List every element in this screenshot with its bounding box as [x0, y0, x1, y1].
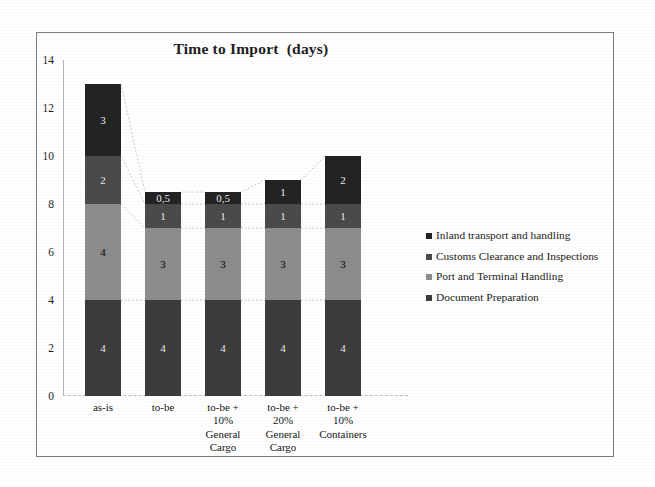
y-axis-tick-label: 0 — [48, 390, 54, 402]
bar-segment-value-label: 1 — [220, 211, 226, 222]
legend-swatch-icon — [426, 233, 432, 239]
bar-segment[interactable]: 4 — [265, 300, 301, 396]
chart-title: Time to Import (days) — [36, 40, 466, 58]
bar-segment[interactable]: 1 — [325, 204, 361, 228]
bar-segment[interactable]: 2 — [325, 156, 361, 204]
y-axis-tick-label: 14 — [43, 54, 55, 66]
legend-label: Inland transport and handling — [436, 228, 570, 243]
bar-segment-value-label: 2 — [100, 175, 106, 186]
bar-segment[interactable]: 4 — [205, 300, 241, 396]
bar-segment[interactable]: 3 — [145, 228, 181, 300]
legend-item[interactable]: Document Preparation — [426, 290, 616, 305]
chart-legend: Inland transport and handlingCustoms Cle… — [426, 228, 616, 310]
bar-segment[interactable]: 4 — [85, 204, 121, 300]
stacked-bar[interactable]: 1134 — [265, 180, 301, 396]
bar-segment-value-label: 1 — [280, 211, 286, 222]
bar-segment-value-label: 3 — [220, 259, 226, 270]
legend-label: Document Preparation — [436, 290, 539, 305]
legend-swatch-icon — [426, 295, 432, 301]
y-axis-tick-label: 2 — [48, 342, 54, 354]
bar-segment[interactable]: 3 — [85, 84, 121, 156]
bar-segment-value-label: 0,5 — [216, 193, 230, 204]
legend-swatch-icon — [426, 254, 432, 260]
bar-segment[interactable]: 1 — [265, 204, 301, 228]
plot-area: 0246810121432440,51340,513411342134 — [63, 60, 403, 396]
bar-segment-value-label: 4 — [280, 343, 286, 354]
x-axis-category-label: to-be +10%Containers — [306, 401, 380, 441]
y-axis-tick-label: 10 — [43, 150, 55, 162]
bar-segment-value-label: 3 — [160, 259, 166, 270]
bar-segment-value-label: 2 — [340, 175, 346, 186]
legend-item[interactable]: Customs Clearance and Inspections — [426, 249, 616, 264]
stacked-bar[interactable]: 2134 — [325, 156, 361, 396]
bar-segment[interactable]: 1 — [145, 204, 181, 228]
stacked-bar[interactable]: 0,5134 — [205, 192, 241, 396]
bar-segment[interactable]: 3 — [205, 228, 241, 300]
bar-segment[interactable]: 1 — [205, 204, 241, 228]
legend-swatch-icon — [426, 274, 432, 280]
bar-segment-value-label: 4 — [100, 343, 106, 354]
bar-segment-value-label: 0,5 — [156, 193, 170, 204]
y-axis-tick-label: 6 — [48, 246, 54, 258]
bar-segment[interactable]: 4 — [325, 300, 361, 396]
bar-segment[interactable]: 4 — [85, 300, 121, 396]
legend-item[interactable]: Port and Terminal Handling — [426, 269, 616, 284]
bar-segment-value-label: 1 — [340, 211, 346, 222]
stacked-bar[interactable]: 3244 — [85, 84, 121, 396]
bar-segment-value-label: 3 — [100, 115, 106, 126]
bar-segment[interactable]: 0,5 — [205, 192, 241, 204]
legend-item[interactable]: Inland transport and handling — [426, 228, 616, 243]
bar-segment[interactable]: 3 — [265, 228, 301, 300]
bar-segment-value-label: 1 — [280, 187, 286, 198]
bar-segment[interactable]: 4 — [145, 300, 181, 396]
bar-segment[interactable]: 2 — [85, 156, 121, 204]
legend-label: Customs Clearance and Inspections — [436, 249, 598, 264]
bar-segment[interactable]: 1 — [265, 180, 301, 204]
y-axis-tick-label: 4 — [48, 294, 54, 306]
y-axis-tick-label: 8 — [48, 198, 54, 210]
bar-segment-value-label: 1 — [160, 211, 166, 222]
bar-segment[interactable]: 0,5 — [145, 192, 181, 204]
bar-segment-value-label: 4 — [220, 343, 226, 354]
bar-segment-value-label: 4 — [340, 343, 346, 354]
bar-segment-value-label: 3 — [340, 259, 346, 270]
bar-segment-value-label: 4 — [100, 247, 106, 258]
bar-segment[interactable]: 3 — [325, 228, 361, 300]
stacked-bar[interactable]: 0,5134 — [145, 192, 181, 396]
bar-segment-value-label: 3 — [280, 259, 286, 270]
bar-segment-value-label: 4 — [160, 343, 166, 354]
y-axis-tick-label: 12 — [43, 102, 55, 114]
legend-label: Port and Terminal Handling — [436, 269, 563, 284]
